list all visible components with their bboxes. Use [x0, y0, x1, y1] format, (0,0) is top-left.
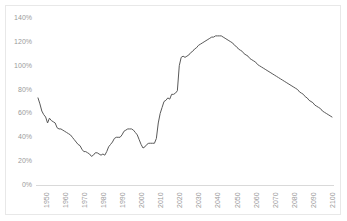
line-chart-plot	[0, 0, 347, 221]
data-series-line	[38, 36, 332, 156]
series-group	[38, 36, 332, 156]
